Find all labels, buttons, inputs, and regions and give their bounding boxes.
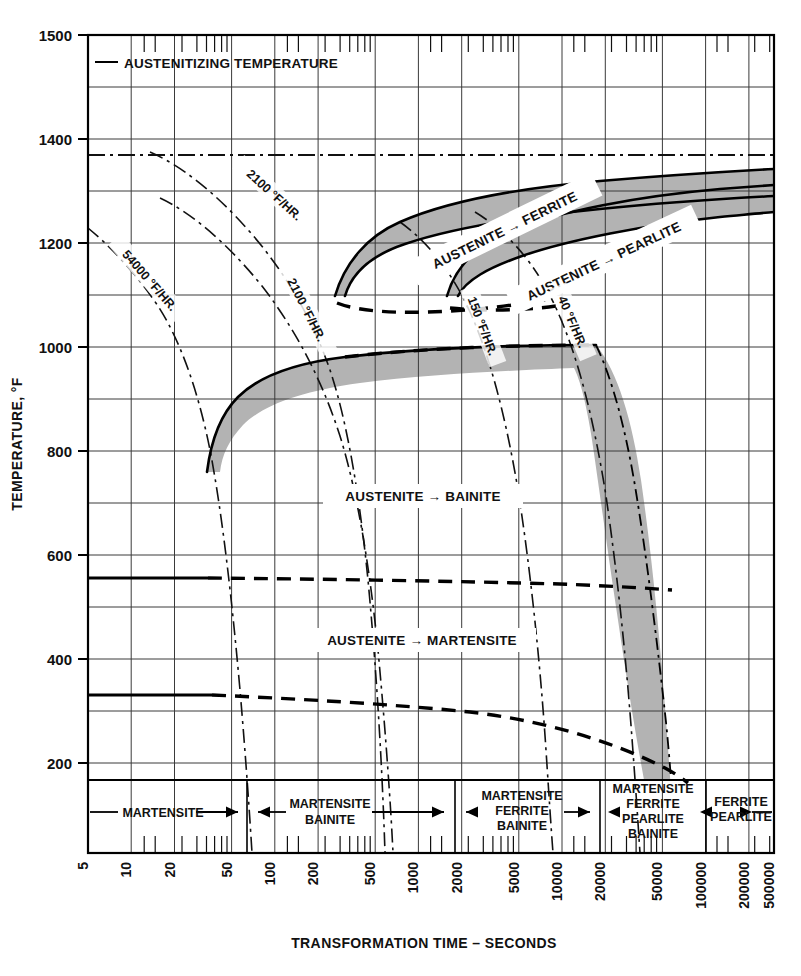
x-tick-label: 500: [362, 862, 378, 886]
product-region-label-fp-1: FERRITE: [714, 795, 767, 809]
y-axis-title: TEMPERATURE, °F: [9, 377, 25, 510]
product-region-label-martensite-bainite-2: BAINITE: [305, 813, 355, 827]
product-region-label-mfb-1: MARTENSITE: [481, 789, 562, 803]
x-axis-title: TRANSFORMATION TIME – SECONDS: [291, 935, 557, 951]
x-tick-label: 50: [219, 862, 235, 878]
austenitizing-temperature-callout: AUSTENITIZING TEMPERATURE: [95, 56, 338, 71]
y-tick-label: 1500: [39, 27, 72, 44]
x-tick-label: 2000: [449, 862, 465, 893]
x-tick-label: 5: [75, 862, 91, 870]
austenite-bainite-banner: AUSTENITE → BAINITE: [323, 484, 523, 508]
y-tick-label: 1000: [39, 339, 72, 356]
product-region-label-martensite-bainite-1: MARTENSITE: [289, 797, 370, 811]
x-tick-label: 200: [305, 862, 321, 886]
x-tick-label: 100: [262, 862, 278, 886]
product-region-label-mfb-2: FERRITE: [495, 804, 548, 818]
product-region-label-fp-2: PEARLITE: [710, 810, 772, 824]
x-tick-label: 10000: [549, 862, 565, 901]
x-tick-label: 10: [118, 862, 134, 878]
x-tick-label: 500000: [761, 862, 777, 909]
austenite-martensite-label: AUSTENITE → MARTENSITE: [327, 633, 517, 648]
x-tick-label: 5000: [506, 862, 522, 893]
cct-chart-svg: 1500 1400 1200 1000 800 600 400 200 TEMP…: [0, 0, 801, 976]
x-tick-label: 100000: [693, 862, 709, 909]
cct-diagram-page: 1500 1400 1200 1000 800 600 400 200 TEMP…: [0, 0, 801, 976]
x-tick-label: 50000: [649, 862, 665, 901]
y-tick-label: 800: [47, 443, 72, 460]
x-tick-label: 1000: [405, 862, 421, 893]
austenitizing-temperature-label: AUSTENITIZING TEMPERATURE: [124, 56, 338, 71]
x-tick-label: 200000: [736, 862, 752, 909]
product-region-label-mfpb-2: FERRITE: [626, 797, 679, 811]
x-tick-label: 20000: [592, 862, 608, 901]
product-region-label-mfpb-3: PEARLITE: [622, 812, 684, 826]
austenite-martensite-banner: AUSTENITE → MARTENSITE: [308, 628, 536, 652]
y-tick-label: 1400: [39, 131, 72, 148]
y-tick-label: 400: [47, 651, 72, 668]
product-region-label-mfb-3: BAINITE: [497, 819, 547, 833]
y-tick-label: 200: [47, 755, 72, 772]
product-region-label-martensite: MARTENSITE: [122, 806, 203, 820]
x-tick-label: 20: [162, 862, 178, 878]
austenite-bainite-label: AUSTENITE → BAINITE: [345, 489, 500, 504]
y-tick-label: 1200: [39, 235, 72, 252]
y-tick-label: 600: [47, 547, 72, 564]
product-region-label-mfpb-1: MARTENSITE: [612, 782, 693, 796]
product-region-label-mfpb-4: BAINITE: [628, 827, 678, 841]
